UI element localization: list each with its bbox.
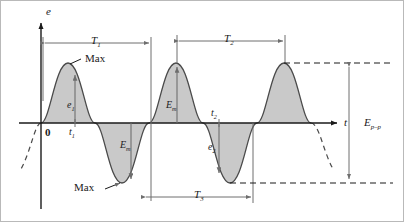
label-Em-lower-sub: m: [126, 145, 130, 152]
label-Em-upper: Em: [166, 100, 177, 112]
label-t2-sub: 2: [214, 113, 217, 120]
label-max-bottom: Max: [74, 182, 94, 193]
axis-label-t: t: [344, 117, 347, 128]
label-e1-sub: 1: [71, 105, 74, 112]
label-T1-sub: 1: [97, 41, 100, 48]
label-T3-sub: 3: [200, 195, 203, 202]
label-Em-lower: Em: [120, 140, 131, 152]
dashed-tail-right: [311, 123, 333, 169]
label-T3: T3: [194, 189, 204, 203]
label-T1: T1: [91, 35, 101, 49]
origin-label-0: 0: [45, 127, 51, 138]
label-Epp: Ep–p: [364, 117, 381, 131]
axis-label-e: e: [46, 6, 51, 17]
label-t1: t1: [69, 127, 75, 139]
label-e2-sub: 2: [212, 147, 215, 154]
dashed-tail-left: [21, 123, 41, 169]
label-e1: e1: [67, 100, 75, 112]
label-T2-sub: 2: [230, 39, 233, 46]
label-t1-sub: 1: [72, 132, 75, 139]
label-T2: T2: [224, 33, 234, 47]
leader-line-max-top: [70, 59, 81, 64]
label-e2: e2: [208, 142, 216, 154]
label-Em-upper-sub: m: [172, 105, 176, 112]
waveform-figure: e t 0 Max Max e1 t1 Em Em t2 e2 Ep–p T1 …: [0, 0, 404, 222]
label-max-top: Max: [85, 53, 105, 64]
label-Epp-sub: p–p: [371, 123, 381, 130]
leader-line-max-bottom: [105, 183, 120, 189]
label-Epp-text: E: [364, 116, 371, 128]
label-t2: t2: [211, 108, 217, 120]
